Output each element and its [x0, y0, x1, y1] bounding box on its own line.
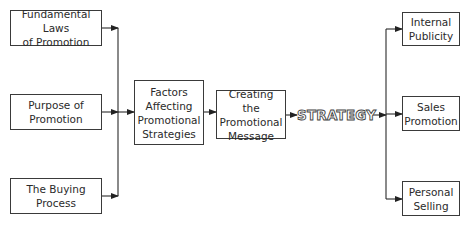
message-label: Creating the Promotional Message: [219, 87, 283, 143]
buying-process-box: The Buying Process: [10, 178, 102, 214]
internal-publicity-label: Internal Publicity: [409, 15, 453, 43]
personal-selling-box: Personal Selling: [402, 181, 460, 216]
factors-label: Factors Affecting Promotional Strategies: [138, 85, 201, 141]
buying-process-label: The Buying Process: [26, 182, 85, 210]
sales-promotion-box: Sales Promotion: [402, 96, 460, 131]
sales-promotion-label: Sales Promotion: [404, 100, 457, 128]
message-box: Creating the Promotional Message: [216, 90, 286, 139]
fundamental-laws-box: Fundamental Laws of Promotion: [10, 10, 102, 46]
personal-selling-label: Personal Selling: [409, 185, 454, 213]
purpose-of-promotion-label: Purpose of Promotion: [28, 98, 84, 126]
strategy-label: STRATEGY: [297, 106, 376, 124]
fundamental-laws-label: Fundamental Laws of Promotion: [13, 7, 99, 49]
purpose-of-promotion-box: Purpose of Promotion: [10, 94, 102, 130]
factors-box: Factors Affecting Promotional Strategies: [134, 80, 204, 145]
internal-publicity-box: Internal Publicity: [402, 12, 460, 46]
